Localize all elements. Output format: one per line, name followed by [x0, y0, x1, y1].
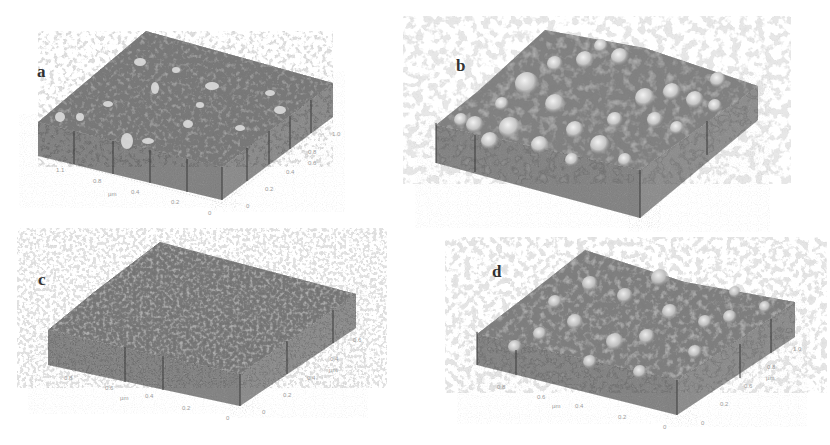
panel-d: d [415, 222, 830, 445]
panel-c: c 0.8 0.6 µm 0.4 0.2 0 0.6 0.4 µm 0.4 0.… [0, 222, 415, 445]
tick-a-right-0: 1.0 [332, 131, 340, 137]
tick-d-left-2: µm [552, 403, 560, 409]
tick-c-right-4: 0.2 [283, 392, 291, 398]
tick-a-left-4: 0.2 [171, 199, 179, 205]
tick-d-left-4: 0.2 [618, 414, 626, 420]
tick-a-right-2: 0.6 [308, 160, 316, 166]
tick-a-left-1: 0.8 [93, 178, 101, 184]
tick-d-right-0: 1.0 [793, 346, 801, 352]
tick-c-left-2: µm [120, 395, 128, 401]
tick-c-left-4: 0.2 [182, 405, 190, 411]
tick-d-left-5: 0 [663, 424, 666, 430]
tick-d-right-2: µm [766, 375, 774, 381]
afm-surface-a [0, 0, 415, 222]
tick-a-left-0: 1.1 [56, 167, 64, 173]
tick-c-right-0: 0.6 [353, 337, 361, 343]
tick-a-right-5: 0 [246, 203, 249, 209]
tick-c-right-2: µm [329, 367, 337, 373]
panel-a: a [0, 0, 415, 222]
tick-c-right-1: 0.4 [330, 356, 338, 362]
tick-c-left-5: 0 [226, 415, 229, 421]
tick-a-right-3: 0.4 [286, 169, 294, 175]
afm-surface-d [415, 222, 830, 445]
tick-c-left-0: 0.8 [64, 375, 72, 381]
tick-a-left-3: 0.4 [131, 189, 139, 195]
tick-a-right-4: 0.2 [265, 186, 273, 192]
tick-d-right-5: 0 [701, 420, 704, 426]
tick-c-left-3: 0.4 [145, 393, 153, 399]
tick-a-left-2: µm [108, 191, 116, 197]
tick-c-right-5: 0 [262, 409, 265, 415]
panel-b: b [415, 0, 830, 222]
afm-surface-c [0, 222, 415, 445]
tick-a-left-5: 0 [208, 210, 211, 216]
tick-c-left-1: 0.6 [105, 385, 113, 391]
tick-d-right-3: 0.6 [744, 383, 752, 389]
tick-d-right-1: 0.8 [767, 364, 775, 370]
afm-surface-b [415, 0, 830, 222]
tick-a-right-1: 0.8 [308, 149, 316, 155]
tick-d-left-1: 0.6 [537, 394, 545, 400]
tick-d-left-0: 0.8 [497, 384, 505, 390]
tick-c-right-3: 0.4 [307, 375, 315, 381]
tick-d-left-3: 0.4 [575, 403, 583, 409]
tick-d-right-4: 0.2 [720, 401, 728, 407]
